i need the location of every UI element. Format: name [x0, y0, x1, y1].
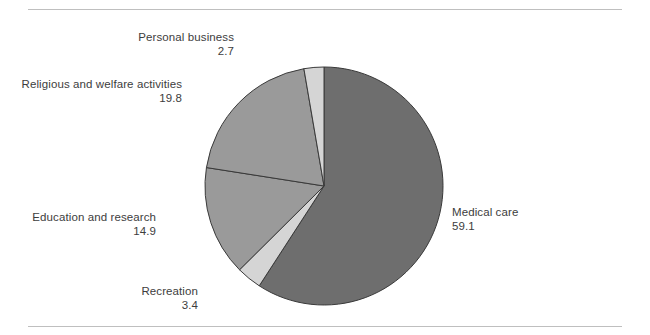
- pie-label-value: 14.9: [6, 224, 156, 238]
- figure-container: Personal business 2.7 Religious and welf…: [0, 0, 650, 335]
- pie-chart: [0, 0, 650, 335]
- pie-label-name: Education and research: [6, 210, 156, 224]
- pie-label-medical-care: Medical care 59.1: [452, 205, 572, 233]
- pie-label-name: Medical care: [452, 205, 572, 219]
- pie-label-name: Personal business: [104, 30, 234, 44]
- pie-label-value: 3.4: [120, 298, 198, 312]
- pie-chart-svg: [0, 0, 650, 335]
- pie-label-value: 2.7: [104, 44, 234, 58]
- pie-label-name: Recreation: [120, 284, 198, 298]
- bottom-rule: [28, 326, 622, 327]
- pie-label-religious-and-welfare-activities: Religious and welfare activities 19.8: [6, 77, 182, 105]
- pie-label-value: 19.8: [6, 91, 182, 105]
- pie-slice: [206, 69, 324, 186]
- pie-label-value: 59.1: [452, 219, 572, 233]
- pie-label-personal-business: Personal business 2.7: [104, 30, 234, 58]
- pie-slices-group: [205, 67, 443, 305]
- pie-label-recreation: Recreation 3.4: [120, 284, 198, 312]
- pie-label-name: Religious and welfare activities: [6, 77, 182, 91]
- pie-label-education-and-research: Education and research 14.9: [6, 210, 156, 238]
